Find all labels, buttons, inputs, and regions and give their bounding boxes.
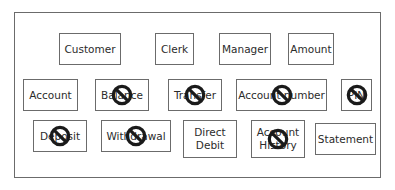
- box-account: Account: [23, 79, 78, 111]
- box-manager: Manager: [219, 33, 271, 65]
- box-account-history: Account History: [251, 120, 305, 158]
- box-statement: Statement: [315, 123, 376, 155]
- box-label: Direct Debit: [194, 126, 225, 152]
- box-amount: Amount: [288, 33, 334, 65]
- box-customer: Customer: [59, 33, 121, 65]
- box-label: Statement: [318, 133, 373, 146]
- box-label: Transfer: [174, 89, 216, 102]
- box-balance: Balance: [95, 79, 149, 111]
- box-label: Customer: [64, 43, 115, 56]
- box-direct-debit: Direct Debit: [183, 120, 237, 158]
- box-label: Amount: [290, 43, 331, 56]
- box-withdrawal: Withdrawal: [101, 120, 171, 152]
- box-label: Account: [29, 89, 71, 102]
- box-label: Manager: [222, 43, 268, 56]
- box-clerk: Clerk: [155, 33, 194, 65]
- box-label: Balance: [101, 89, 143, 102]
- box-transfer: Transfer: [168, 79, 222, 111]
- box-label: Deposit: [40, 130, 80, 143]
- box-label: Withdrawal: [106, 130, 165, 143]
- box-label: Account History: [257, 126, 299, 152]
- box-deposit: Deposit: [33, 120, 87, 152]
- box-label: PIN: [348, 89, 365, 102]
- box-account-number: Account number: [236, 79, 327, 111]
- box-label: Clerk: [161, 43, 188, 56]
- box-label: Account number: [238, 89, 325, 102]
- box-pin: PIN: [341, 79, 372, 111]
